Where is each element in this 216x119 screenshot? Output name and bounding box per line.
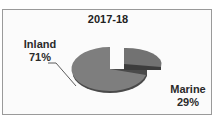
marine-slice [124, 48, 162, 67]
inland-percent: 71% [20, 51, 60, 64]
inland-name: Inland [20, 38, 60, 51]
marine-label: Marine 29% [168, 83, 208, 109]
inland-label: Inland 71% [20, 38, 60, 64]
marine-name: Marine [168, 83, 208, 96]
marine-percent: 29% [168, 96, 208, 109]
